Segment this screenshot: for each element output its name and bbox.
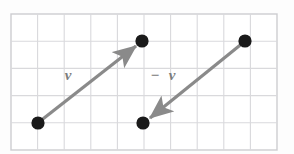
point-lower-middle: [136, 116, 149, 129]
label-vector-minus-v: v: [169, 67, 176, 83]
point-upper-right: [238, 34, 251, 47]
label-vector-v: v: [65, 67, 72, 83]
vector-diagram: v − v: [0, 0, 294, 154]
figure-container: v − v: [0, 0, 294, 154]
grid: [11, 14, 277, 150]
label-minus-sign: −: [151, 67, 160, 83]
point-upper-middle: [135, 34, 148, 47]
point-lower-left: [31, 116, 44, 129]
